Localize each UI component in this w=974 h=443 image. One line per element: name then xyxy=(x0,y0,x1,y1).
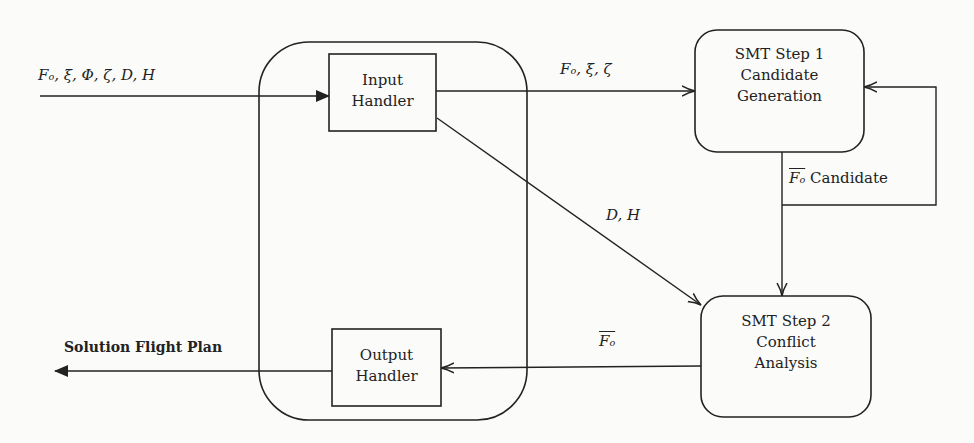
smt-step2-line3: Analysis xyxy=(755,353,818,374)
smt-step2-line1: SMT Step 2 xyxy=(741,311,831,332)
input-handler-line2: Handler xyxy=(351,91,413,112)
output-handler-line2: Handler xyxy=(355,366,417,387)
step2-to-output-arrow xyxy=(441,366,701,368)
input-handler-line1: Input xyxy=(362,70,403,91)
output-handler-label: Output Handler xyxy=(332,345,441,387)
smt-step1-line2: Candidate xyxy=(741,65,819,86)
solution-symbol-label: Fₒ xyxy=(599,332,615,350)
output-handler-line1: Output xyxy=(360,345,413,366)
smt-step1-label: SMT Step 1 Candidate Generation xyxy=(695,44,864,107)
input-to-step2-arrow xyxy=(437,118,701,305)
solution-flight-plan-label: Solution Flight Plan xyxy=(64,339,222,355)
step1-variables-label: Fₒ, ξ, ζ xyxy=(560,60,612,78)
candidate-text: Candidate xyxy=(810,169,888,187)
smt-step2-line2: Conflict xyxy=(756,332,815,353)
input-handler-label: Input Handler xyxy=(329,70,436,112)
smt-step1-line1: SMT Step 1 xyxy=(735,44,825,65)
step2-variables-label: D, H xyxy=(606,206,640,224)
input-variables-label: Fₒ, ξ, Φ, ζ, D, H xyxy=(38,66,155,84)
candidate-symbol: Fₒ xyxy=(789,169,805,187)
smt-step1-line3: Generation xyxy=(737,86,822,107)
smt-step2-label: SMT Step 2 Conflict Analysis xyxy=(701,311,871,374)
candidate-label: Fₒ Candidate xyxy=(789,169,888,187)
